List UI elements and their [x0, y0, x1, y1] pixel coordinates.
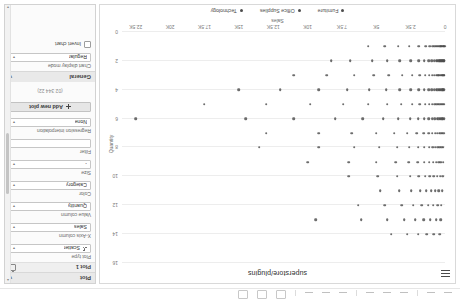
section-header-general[interactable]: General ▾ — [5, 71, 95, 82]
scatter-point[interactable] — [410, 190, 412, 192]
scatter-point[interactable] — [348, 161, 350, 163]
scatter-point[interactable] — [406, 132, 408, 134]
scatter-point[interactable] — [425, 190, 427, 192]
scatter-point[interactable] — [401, 204, 403, 206]
scatter-point[interactable] — [367, 45, 369, 47]
chevron-down-icon[interactable]: ▾ — [13, 56, 15, 60]
scatter-point[interactable] — [424, 103, 426, 105]
section-header-plot[interactable]: Plot ▾ — [5, 272, 95, 283]
scatter-point[interactable] — [418, 45, 420, 47]
scatter-point[interactable] — [397, 117, 399, 119]
scatter-point[interactable] — [346, 89, 348, 91]
scatter-point[interactable] — [317, 132, 319, 134]
scatter-point[interactable] — [431, 146, 433, 148]
scatter-point[interactable] — [436, 175, 438, 177]
scatter-point[interactable] — [418, 103, 420, 105]
scatter-point[interactable] — [424, 74, 426, 76]
scatter-point[interactable] — [265, 132, 267, 134]
scatter-point[interactable] — [423, 117, 425, 119]
select-regression-interpolation[interactable]: None ▾ — [9, 118, 91, 127]
scatter-point[interactable] — [427, 60, 429, 62]
scatter-point[interactable] — [428, 161, 430, 163]
scatter-point[interactable] — [434, 146, 436, 148]
scatter-point[interactable] — [376, 175, 378, 177]
scatter-point[interactable] — [419, 190, 421, 192]
scatter-point[interactable] — [401, 74, 403, 76]
scatter-point[interactable] — [238, 89, 240, 91]
scatter-point[interactable] — [396, 175, 398, 177]
plot-canvas[interactable]: 024681012141602.5K5K7.5K10K12.5K15K17.5K… — [122, 32, 445, 263]
scatter-point[interactable] — [411, 103, 413, 105]
scatter-point[interactable] — [417, 161, 419, 163]
scatter-point[interactable] — [409, 89, 411, 91]
scatter-point[interactable] — [342, 103, 344, 105]
scatter-point[interactable] — [309, 103, 311, 105]
scatter-point[interactable] — [350, 132, 352, 134]
scatter-point[interactable] — [315, 218, 317, 220]
scatter-point[interactable] — [435, 89, 437, 91]
scatter-point[interactable] — [430, 60, 432, 62]
scatter-point[interactable] — [427, 132, 429, 134]
scatter-point[interactable] — [439, 175, 441, 177]
scatter-point[interactable] — [414, 218, 416, 220]
scatter-point[interactable] — [427, 89, 429, 91]
scatter-point[interactable] — [372, 74, 374, 76]
scatter-point[interactable] — [379, 190, 381, 192]
scatter-point[interactable] — [417, 233, 419, 235]
scatter-point[interactable] — [440, 204, 442, 206]
scatter-point[interactable] — [433, 89, 435, 91]
scatter-point[interactable] — [439, 218, 441, 220]
chevron-down-icon[interactable]: ▾ — [5, 5, 10, 10]
scatter-point[interactable] — [440, 161, 442, 163]
scatter-point[interactable] — [428, 117, 430, 119]
scatter-point[interactable] — [438, 233, 440, 235]
chevron-down-icon[interactable]: ▾ — [13, 205, 15, 209]
scatter-point[interactable] — [326, 74, 328, 76]
scatter-point[interactable] — [431, 132, 433, 134]
scatter-point[interactable] — [386, 60, 388, 62]
scatter-point[interactable] — [349, 60, 351, 62]
scatter-point[interactable] — [418, 74, 420, 76]
scatter-point[interactable] — [436, 117, 438, 119]
toolbar-italic-icon[interactable] — [322, 290, 330, 297]
scatter-point[interactable] — [431, 45, 433, 47]
scatter-point[interactable] — [428, 103, 430, 105]
scatter-point[interactable] — [426, 233, 428, 235]
scatter-point[interactable] — [433, 233, 435, 235]
scatter-point[interactable] — [367, 103, 369, 105]
select-size[interactable]: - ▾ — [9, 160, 91, 169]
scatter-point[interactable] — [429, 175, 431, 177]
scatter-point[interactable] — [430, 89, 432, 91]
scatter-point[interactable] — [394, 161, 396, 163]
scatter-point[interactable] — [441, 190, 443, 192]
scatter-point[interactable] — [245, 117, 247, 119]
scatter-point[interactable] — [439, 146, 441, 148]
chevron-down-icon[interactable]: ▾ — [13, 121, 15, 125]
scatter-point[interactable] — [317, 146, 319, 148]
scatter-point[interactable] — [375, 161, 377, 163]
toolbar-redo-icon[interactable] — [427, 290, 435, 297]
scatter-point[interactable] — [306, 161, 308, 163]
scatter-point[interactable] — [353, 146, 355, 148]
scatter-point[interactable] — [383, 204, 385, 206]
scatter-point[interactable] — [398, 190, 400, 192]
scatter-point[interactable] — [386, 218, 388, 220]
scatter-point[interactable] — [434, 103, 436, 105]
scatter-point[interactable] — [423, 146, 425, 148]
legend-item[interactable]: Technology — [211, 8, 243, 14]
scatter-point[interactable] — [265, 103, 267, 105]
legend-item[interactable]: Furniture — [318, 8, 345, 14]
toolbar-align-icon[interactable] — [305, 290, 313, 297]
scatter-point[interactable] — [425, 45, 427, 47]
scatter-point[interactable] — [429, 45, 431, 47]
scatter-point[interactable] — [348, 175, 350, 177]
scatter-point[interactable] — [418, 89, 420, 91]
scatter-point[interactable] — [418, 175, 420, 177]
scatter-point[interactable] — [434, 132, 436, 134]
scatter-point[interactable] — [408, 45, 410, 47]
scatter-point[interactable] — [435, 161, 437, 163]
scatter-point[interactable] — [293, 117, 295, 119]
scatter-point[interactable] — [437, 161, 439, 163]
toolbar-bold-icon[interactable] — [339, 290, 347, 297]
config-panel-scrollbar[interactable]: ▴ ▾ — [5, 5, 11, 283]
